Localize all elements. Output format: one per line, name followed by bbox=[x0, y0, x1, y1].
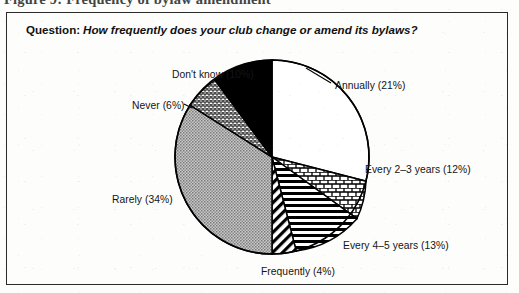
figure-page: Figure 9: Frequency of bylaw amendment Q… bbox=[0, 0, 519, 293]
slice-label-frequently: Frequently (4%) bbox=[261, 266, 335, 277]
figure-caption: Figure 9: Frequency of bylaw amendment bbox=[4, 0, 271, 8]
slice-label-never: Never (6%) bbox=[132, 100, 185, 111]
slice-label-annually: Annually (21%) bbox=[335, 80, 406, 91]
slice-label-every-2-3-years: Every 2–3 years (12%) bbox=[365, 164, 471, 175]
pie-chart-area: Annually (21%) Every 2–3 years (12%) Eve… bbox=[6, 12, 508, 285]
slice-label-every-4-5-years: Every 4–5 years (13%) bbox=[343, 240, 449, 251]
slice-label-rarely: Rarely (34%) bbox=[112, 194, 173, 205]
slice-label-dont-know: Don't know (10%) bbox=[172, 69, 254, 80]
